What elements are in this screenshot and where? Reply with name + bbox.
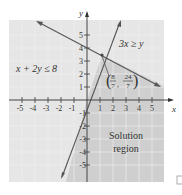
svg-text:1: 1 [98,104,102,113]
svg-text:3: 3 [79,57,83,66]
svg-text:24: 24 [125,73,133,81]
svg-text:-5: -5 [79,161,86,170]
svg-text:5: 5 [150,104,154,113]
svg-text:-3: -3 [79,135,86,144]
svg-text:-1: -1 [69,104,76,113]
x-axis-label: x [171,104,176,114]
svg-text:4: 4 [137,104,141,113]
svg-text:-4: -4 [79,148,86,157]
x-axis-arrow-icon [168,98,174,102]
square-icon [177,176,182,184]
svg-text:2: 2 [79,70,83,79]
svg-text:-5: -5 [17,104,24,113]
svg-text:): ) [133,72,138,90]
svg-text:7: 7 [126,82,130,90]
svg-text:5: 5 [79,31,83,40]
svg-text:3: 3 [124,104,128,113]
svg-text:-3: -3 [43,104,50,113]
solution-label-line1: Solution [109,130,143,141]
svg-text:7: 7 [111,82,115,90]
svg-text:-4: -4 [30,104,37,113]
inequality-label-2: 3x ≥ y [118,38,144,49]
svg-text:8: 8 [111,73,115,81]
solution-label-line2: region [113,143,139,154]
svg-text:1: 1 [79,83,83,92]
y-axis-arrow-icon [85,11,89,17]
inequality-label-1: x + 2y ≤ 8 [15,63,57,74]
svg-text:2: 2 [111,104,115,113]
graph: -5 -4 -3 -2 -1 1 2 3 4 5 5 4 3 2 1 -1 -2… [0,0,182,195]
svg-text:,: , [117,80,119,89]
svg-text:-2: -2 [56,104,63,113]
y-axis-label: y [78,8,83,18]
